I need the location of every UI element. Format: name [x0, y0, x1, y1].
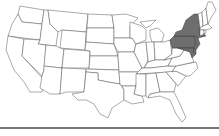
- state-maine[interactable]: [206, 2, 216, 24]
- us-map: [0, 0, 219, 136]
- state-iowa[interactable]: [114, 38, 136, 52]
- state-mississippi[interactable]: [134, 74, 146, 96]
- state-rhode-island[interactable]: [204, 30, 206, 34]
- states: [6, 2, 216, 122]
- state-south-dakota[interactable]: [86, 28, 114, 44]
- state-utah[interactable]: [44, 45, 64, 68]
- state-north-dakota[interactable]: [87, 14, 114, 28]
- state-wyoming[interactable]: [60, 30, 86, 50]
- state-colorado[interactable]: [62, 49, 90, 68]
- state-arkansas[interactable]: [119, 72, 138, 86]
- state-pennsylvania[interactable]: [170, 36, 196, 48]
- bottom-divider: [0, 127, 219, 129]
- state-kansas[interactable]: [89, 56, 119, 70]
- state-nebraska[interactable]: [85, 42, 118, 56]
- state-new-mexico[interactable]: [60, 68, 86, 94]
- state-florida[interactable]: [148, 92, 186, 122]
